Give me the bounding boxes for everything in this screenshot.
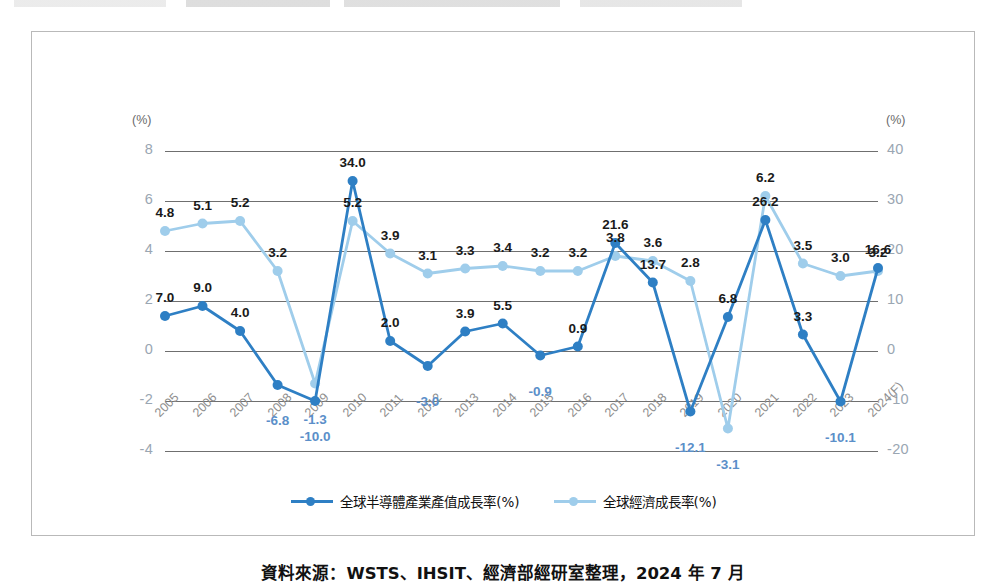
data-point-label: 26.2 — [752, 194, 778, 209]
left-axis-tick-label: -2 — [123, 391, 153, 407]
data-point-label: 6.2 — [756, 170, 775, 185]
data-point-label: 13.7 — [640, 257, 666, 272]
data-point-label: 9.0 — [193, 280, 212, 295]
data-point-label: 3.8 — [606, 230, 625, 245]
series-data-point — [798, 330, 808, 340]
data-point-label: 4.0 — [231, 305, 250, 320]
legend-item-global-economy[interactable]: 全球經濟成長率(%) — [554, 491, 717, 511]
data-point-label: 3.2 — [568, 245, 587, 260]
data-point-label: 3.3 — [456, 243, 475, 258]
legend-item-semiconductor[interactable]: 全球半導體產業產值成長率(%) — [291, 491, 519, 511]
data-point-label: 2.0 — [381, 315, 400, 330]
right-axis-tick-label: 20 — [887, 241, 927, 257]
data-point-label: 21.6 — [602, 217, 628, 232]
series-data-point — [648, 278, 658, 288]
right-axis-tick-label: 10 — [887, 291, 927, 307]
series-data-point — [460, 327, 470, 337]
series-data-point — [273, 380, 283, 390]
data-point-label: 5.2 — [231, 195, 250, 210]
data-point-label: 5.2 — [343, 195, 362, 210]
right-axis-unit-label: (%) — [886, 113, 905, 127]
data-point-label: 3.2 — [268, 245, 287, 260]
chart-plot-area: 86420-2-4 403020100-10-20 (%) (%) 200520… — [165, 151, 878, 451]
left-axis-tick-label: 6 — [123, 191, 153, 207]
series-data-point — [423, 361, 433, 371]
right-axis-tick-label: 30 — [887, 191, 927, 207]
left-axis-tick-label: 0 — [123, 341, 153, 357]
data-point-label: -1.3 — [303, 412, 326, 427]
series-data-point — [873, 263, 883, 273]
data-point-label: 0.9 — [568, 321, 587, 336]
gridline — [165, 451, 878, 452]
series-data-point — [760, 215, 770, 225]
figure-border-box: 86420-2-4 403020100-10-20 (%) (%) 200520… — [31, 31, 975, 536]
legend-label: 全球半導體產業產值成長率(%) — [340, 491, 519, 511]
data-point-label: 5.1 — [193, 198, 212, 213]
data-point-label: -0.9 — [529, 384, 552, 399]
data-point-label: 3.5 — [794, 238, 813, 253]
data-point-label: 34.0 — [339, 155, 365, 170]
series-data-point — [573, 342, 583, 352]
chart-legend: 全球半導體產業產值成長率(%)全球經濟成長率(%) — [32, 491, 976, 511]
data-point-label: -3.0 — [416, 394, 439, 409]
series-data-point — [498, 319, 508, 329]
data-point-label: 2.8 — [681, 255, 700, 270]
series-data-point — [310, 396, 320, 406]
data-point-label: 16.6 — [865, 242, 891, 257]
data-point-label: 3.9 — [456, 306, 475, 321]
left-axis-tick-label: -4 — [123, 441, 153, 457]
left-axis-tick-label: 2 — [123, 291, 153, 307]
data-point-label: 3.4 — [493, 240, 512, 255]
page-top-artifact-strip — [0, 0, 1008, 7]
series-data-point — [235, 326, 245, 336]
legend-marker-icon — [291, 495, 333, 507]
series-polyline — [165, 181, 878, 412]
source-caption: 資料來源：WSTS、IHSIT、經濟部經研室整理，2024 年 7 月 — [31, 560, 975, 584]
legend-label: 全球經濟成長率(%) — [603, 491, 717, 511]
data-point-label: 3.6 — [643, 235, 662, 250]
series-data-point — [348, 176, 358, 186]
data-point-label: -6.8 — [266, 413, 289, 428]
data-point-label: 3.2 — [531, 245, 550, 260]
right-axis-tick-label: 40 — [887, 141, 927, 157]
data-point-label: -10.1 — [825, 430, 856, 445]
data-point-label: -3.1 — [716, 457, 739, 472]
series-data-point — [160, 311, 170, 321]
data-point-label: 3.9 — [381, 228, 400, 243]
data-point-label: 4.8 — [156, 205, 175, 220]
data-point-label: -12.1 — [675, 440, 706, 455]
data-point-label: 7.0 — [156, 290, 175, 305]
data-point-label: 3.0 — [831, 250, 850, 265]
right-axis-tick-label: 0 — [887, 341, 927, 357]
left-axis-tick-label: 8 — [123, 141, 153, 157]
series-data-point — [385, 336, 395, 346]
data-point-label: -10.0 — [300, 429, 331, 444]
series-data-point — [685, 407, 695, 417]
right-axis-tick-label: -20 — [887, 441, 927, 457]
series-data-point — [535, 351, 545, 361]
data-point-label: 5.5 — [493, 298, 512, 313]
data-point-label: 3.3 — [794, 309, 813, 324]
left-axis-unit-label: (%) — [132, 113, 151, 127]
left-axis-tick-label: 4 — [123, 241, 153, 257]
data-point-label: 6.8 — [719, 291, 738, 306]
series-data-point — [836, 397, 846, 407]
series-data-point — [723, 312, 733, 322]
series-data-point — [198, 301, 208, 311]
data-point-label: 3.1 — [418, 248, 437, 263]
legend-marker-icon — [554, 495, 596, 507]
